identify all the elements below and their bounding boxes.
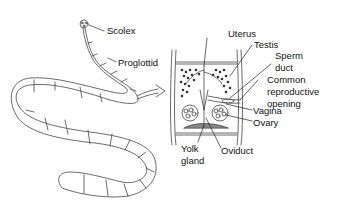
label-common-2: reproductive (267, 86, 319, 97)
tapeworm-body (11, 28, 156, 197)
label-sperm-duct-2: duct (275, 62, 293, 73)
tapeworm-diagram: Scolex Proglottid Uterus Testis Sperm du… (0, 0, 338, 215)
label-ovary: Ovary (253, 117, 278, 128)
label-proglottid: Proglottid (118, 57, 158, 68)
label-oviduct: Oviduct (221, 145, 253, 156)
label-sperm-duct-1: Sperm (275, 50, 303, 61)
label-testis: Testis (254, 39, 278, 50)
label-scolex: Scolex (107, 25, 136, 36)
arrow (137, 85, 165, 99)
label-common-1: Common (267, 74, 306, 85)
scolex-head (80, 20, 104, 31)
proglottid-detail (171, 50, 243, 145)
label-vagina: Vagina (253, 105, 282, 116)
label-yolk-2: gland (181, 155, 204, 166)
label-yolk-1: Yolk (181, 143, 199, 154)
label-uterus: Uterus (228, 28, 256, 39)
